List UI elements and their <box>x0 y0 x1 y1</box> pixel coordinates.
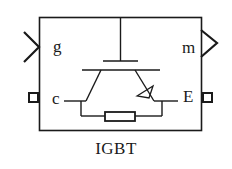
gate-input-port-icon[interactable] <box>24 32 39 62</box>
gate-port-label: g <box>53 38 62 55</box>
resistor-icon <box>105 112 135 121</box>
measurement-port-label: m <box>182 39 195 56</box>
collector-connection-port-icon[interactable] <box>29 93 38 102</box>
block-title[interactable]: IGBT <box>0 139 232 159</box>
measurement-output-port-icon[interactable] <box>201 30 217 57</box>
emitter-port-label: E <box>183 88 193 105</box>
collector-port-label: c <box>52 90 60 107</box>
emitter-connection-port-icon[interactable] <box>203 93 212 102</box>
